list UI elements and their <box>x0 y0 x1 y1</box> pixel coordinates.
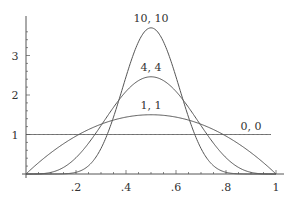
x-tick-label: 1 <box>273 181 280 194</box>
x-tick-label: .2 <box>71 181 82 194</box>
x-tick-label: .8 <box>221 181 232 194</box>
x-tick-label: .6 <box>171 181 182 194</box>
y-tick-label: 1 <box>12 129 19 142</box>
curve-label: 0, 0 <box>241 120 262 133</box>
curve-label: 4, 4 <box>141 61 162 74</box>
x-tick-label: .4 <box>121 181 132 194</box>
curve-4-4 <box>26 77 276 174</box>
curve-label: 1, 1 <box>141 99 162 112</box>
chart: .2.4.6.81123 10, 104, 41, 10, 0 <box>0 0 294 198</box>
y-tick-label: 2 <box>12 89 19 102</box>
curve-1-1 <box>26 115 276 174</box>
beta-density-plot: .2.4.6.81123 10, 104, 41, 10, 0 <box>0 0 294 198</box>
y-tick-label: 3 <box>12 50 19 63</box>
curve-label: 10, 10 <box>134 12 169 25</box>
